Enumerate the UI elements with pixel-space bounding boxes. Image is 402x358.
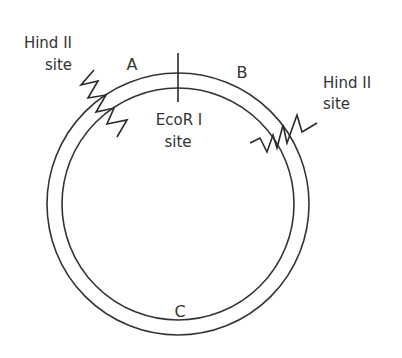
hind-left-label-line2: site — [45, 56, 72, 74]
hind-right-site-marker — [250, 115, 317, 152]
segment-a-label: A — [127, 55, 138, 74]
ecori-label-line1: EcoR I — [156, 111, 203, 129]
ecori-label-line2: site — [164, 133, 191, 151]
hind-left-label-line1: Hind II — [24, 34, 72, 52]
hind-right-label-line1: Hind II — [323, 74, 371, 92]
segment-b-label: B — [237, 63, 248, 82]
plasmid-diagram: A B C Hind II site Hind II site EcoR I s… — [0, 0, 402, 358]
segment-c-label: C — [174, 302, 185, 321]
hind-right-label-line2: site — [323, 95, 350, 113]
